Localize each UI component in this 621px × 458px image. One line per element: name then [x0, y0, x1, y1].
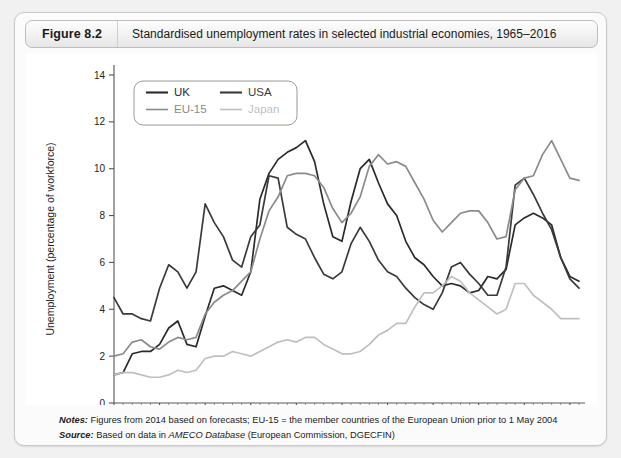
y-tick-label: 10	[94, 163, 106, 174]
notes-label: Notes:	[59, 415, 88, 425]
y-tick-label: 0	[99, 398, 105, 405]
y-tick-label: 4	[99, 304, 105, 315]
notes-line: Notes: Figures from 2014 based on foreca…	[59, 413, 599, 428]
header-divider	[117, 21, 118, 47]
y-tick-label: 2	[99, 351, 105, 362]
legend-label-eu-15: EU-15	[174, 103, 207, 115]
source-line: Source: Based on data in AMECO Database …	[59, 428, 599, 443]
figure-caption: Standardised unemployment rates in selec…	[132, 27, 556, 41]
y-tick-label: 6	[99, 257, 105, 268]
notes-text: Figures from 2014 based on forecasts; EU…	[88, 415, 558, 425]
legend-label-usa: USA	[248, 86, 272, 98]
legend-label-uk: UK	[174, 86, 190, 98]
y-tick-label: 14	[94, 70, 106, 81]
source-database-name: AMECO Database	[169, 430, 245, 440]
figure-root: Figure 8.2 Standardised unemployment rat…	[0, 0, 621, 458]
y-tick-label: 12	[94, 116, 106, 127]
series-line-eu-15	[114, 141, 579, 357]
figure-card: Figure 8.2 Standardised unemployment rat…	[14, 12, 607, 446]
source-post: (European Commission, DGECFIN)	[245, 430, 395, 440]
figure-number: Figure 8.2	[26, 27, 102, 41]
legend-label-japan: Japan	[248, 103, 279, 115]
source-pre: Based on data in	[94, 430, 169, 440]
source-label: Source:	[59, 430, 94, 440]
figure-notes: Notes: Figures from 2014 based on foreca…	[59, 413, 599, 443]
y-tick-label: 8	[99, 210, 105, 221]
series-line-japan	[114, 276, 579, 377]
chart-plot-area: 0246810121419651970197519801985199019952…	[26, 53, 597, 405]
y-axis-title: Unemployment (percentage of workforce)	[44, 142, 56, 335]
unemployment-line-chart: 0246810121419651970197519801985199019952…	[26, 53, 597, 405]
figure-header: Figure 8.2 Standardised unemployment rat…	[25, 20, 598, 48]
